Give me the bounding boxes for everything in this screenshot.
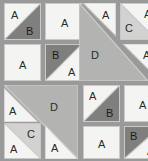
tile-label-a: A <box>139 100 146 111</box>
tile-arrangement-board: A B A A B A D A C <box>0 0 148 161</box>
tile-r2c2[interactable]: B A <box>45 44 82 81</box>
tile-r1c2[interactable]: A <box>45 3 82 40</box>
tile-label-b: B <box>106 108 113 119</box>
tile-label-a: A <box>102 10 109 21</box>
tile-r4c4[interactable]: B A <box>124 126 148 159</box>
tile-label-a: A <box>144 9 148 20</box>
tile-r4c3[interactable]: A <box>83 126 120 159</box>
tile-label-a: A <box>147 146 148 157</box>
tile-r1c1[interactable]: A B <box>4 3 41 40</box>
tile-label-d: D <box>50 102 58 113</box>
tile-label-b: B <box>130 131 137 142</box>
tile-r1c3[interactable]: A <box>79 3 116 40</box>
tile-label-a: A <box>19 60 26 71</box>
tile-label-a: A <box>9 106 16 117</box>
tile-label-d: D <box>91 50 99 61</box>
half-square-triangle-shape <box>79 3 116 40</box>
tile-r4c2[interactable]: A <box>45 123 82 159</box>
tile-r1c4[interactable]: C A <box>120 3 148 40</box>
tile-label-a: A <box>98 139 105 150</box>
tile-r3c1[interactable]: A <box>4 85 41 122</box>
tile-label-a: A <box>143 50 148 61</box>
tile-label-c: C <box>27 129 35 140</box>
tile-label-a: A <box>61 18 68 29</box>
tile-label-a: A <box>11 10 18 21</box>
tile-label-c: C <box>125 23 133 34</box>
tile-label-a: A <box>10 144 17 155</box>
tile-label-a: A <box>89 91 96 102</box>
tile-label-b: B <box>26 26 33 37</box>
tile-r4c1[interactable]: C A <box>4 123 41 159</box>
tile-label-a: A <box>68 67 75 78</box>
tile-r3c4[interactable]: A <box>124 85 148 122</box>
tile-r2c4[interactable]: A <box>120 44 148 81</box>
tile-label-b: B <box>52 50 59 61</box>
tile-label-a: A <box>51 143 58 154</box>
tile-r3c3[interactable]: A B <box>83 85 120 122</box>
tile-r2c1[interactable]: A <box>4 44 41 81</box>
